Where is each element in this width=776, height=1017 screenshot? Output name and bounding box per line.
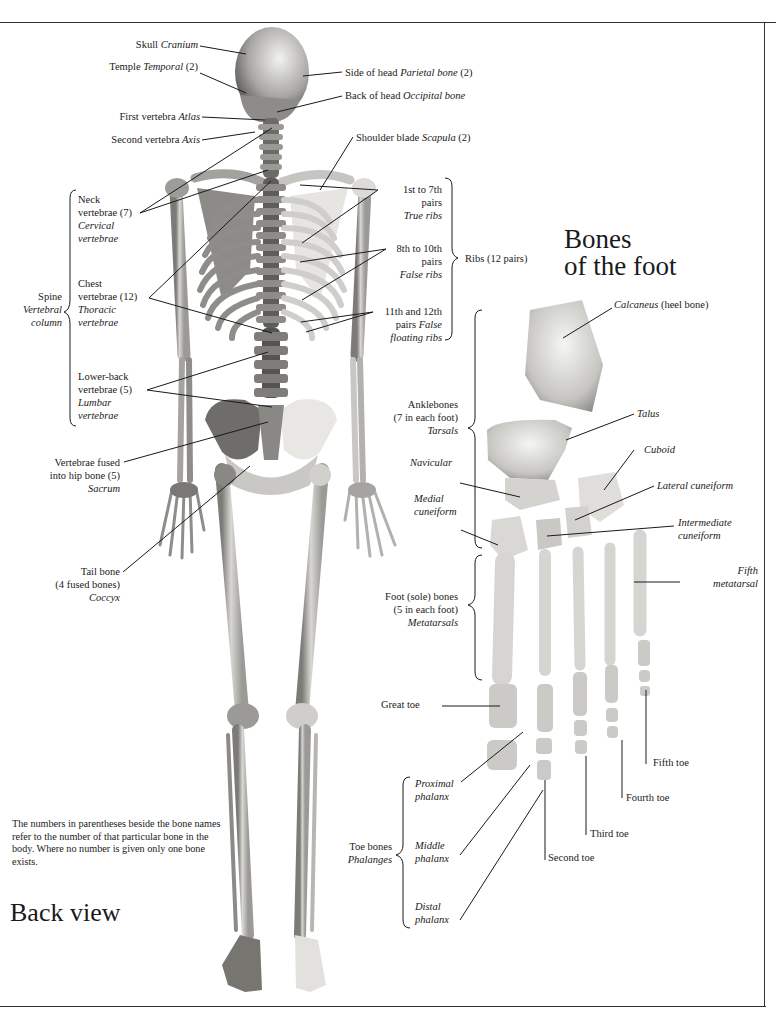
label-calcaneus: Calcaneus (heel bone): [614, 298, 708, 311]
label-third-toe: Third toe: [590, 827, 629, 840]
label-occipital: Back of head Occipital bone: [345, 89, 465, 102]
label-fourth-toe: Fourth toe: [626, 791, 669, 804]
label-spine: Spine Vertebral column: [10, 290, 62, 329]
label-metatarsals: Foot (sole) bones (5 in each foot) Metat…: [360, 590, 458, 629]
label-atlas: First vertebra Atlas: [60, 110, 200, 123]
label-ribs: Ribs (12 pairs): [465, 252, 527, 265]
label-axis: Second vertebra Axis: [60, 133, 200, 146]
label-proximal-phalanx: Proximal phalanx: [415, 777, 454, 803]
label-scapula: Shoulder blade Scapula (2): [356, 131, 471, 144]
label-true-ribs: 1st to 7th pairs True ribs: [360, 183, 442, 222]
label-skull: Skull Cranium: [110, 38, 198, 51]
view-title: Back view: [10, 900, 120, 926]
label-medial-cuneiform: Medial cuneiform: [414, 492, 457, 518]
label-fifth-metatarsal: Fifth metatarsal: [680, 564, 758, 590]
label-cuboid: Cuboid: [644, 443, 675, 456]
label-temple: Temple Temporal (2): [80, 60, 198, 73]
label-floating-ribs: 11th and 12th pairs False floating ribs: [350, 305, 442, 344]
label-intermediate-cuneiform: Intermediate cuneiform: [678, 516, 732, 542]
label-fifth-toe: Fifth toe: [653, 756, 689, 769]
label-sacrum: Vertebrae fused into hip bone (5) Sacrum: [20, 456, 120, 495]
label-parietal: Side of head Parietal bone (2): [345, 66, 472, 79]
label-second-toe: Second toe: [548, 851, 594, 864]
label-false-ribs: 8th to 10th pairs False ribs: [360, 242, 442, 281]
label-neck-vertebrae: Neck vertebrae (7) Cervical vertebrae: [78, 193, 132, 245]
label-navicular: Navicular: [410, 456, 452, 469]
label-tarsals: Anklebones (7 in each foot) Tarsals: [370, 398, 458, 437]
foot-title: Bones of the foot: [564, 226, 676, 280]
label-talus: Talus: [637, 407, 659, 420]
label-great-toe: Great toe: [381, 698, 420, 711]
label-lumbar-vertebrae: Lower-back vertebrae (5) Lumbar vertebra…: [78, 370, 132, 422]
label-phalanges: Toe bones Phalanges: [320, 840, 392, 866]
label-lateral-cuneiform: Lateral cuneiform: [657, 479, 733, 492]
label-distal-phalanx: Distal phalanx: [415, 900, 449, 926]
label-chest-vertebrae: Chest vertebrae (12) Thoracic vertebrae: [78, 277, 137, 329]
label-coccyx: Tail bone (4 fused bones) Coccyx: [20, 565, 120, 604]
parentheses-note: The numbers in parentheses beside the bo…: [12, 818, 222, 868]
label-middle-phalanx: Middle phalanx: [415, 839, 449, 865]
